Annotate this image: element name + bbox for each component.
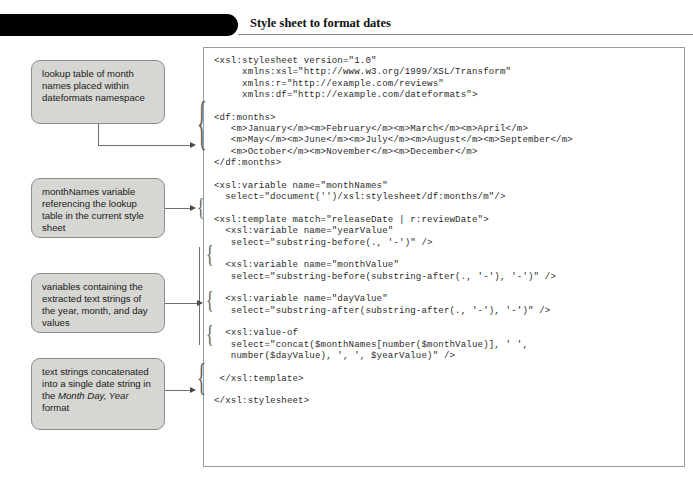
callout-monthnames-variable-text: monthNames variable referencing the look… <box>42 186 144 233</box>
figure-number-label: Figure 6-27 <box>604 16 667 31</box>
brace-monthnames-variable: { <box>197 194 205 219</box>
brace-dayvalue-variable: { <box>206 321 214 346</box>
variables-brace-spine <box>199 247 200 345</box>
callout-monthnames-variable: monthNames variable referencing the look… <box>31 178 165 238</box>
brace-lookup-table: { <box>197 93 207 152</box>
brace-yearvalue-variable: { <box>206 241 214 266</box>
callout-lookup-table: lookup table of month names placed withi… <box>31 60 165 124</box>
figure-title: Style sheet to format dates <box>250 16 391 31</box>
code-listing: <xsl:stylesheet version="1.0" xmlns:xsl=… <box>214 55 573 407</box>
callout-extracted-variables-text: variables containing the extracted text … <box>42 281 148 328</box>
brace-valueof-concat: { <box>197 359 206 396</box>
callout-concatenated-string-text-italic: Month Day, Year <box>58 390 129 401</box>
callout-concatenated-string-text-after: format <box>42 402 69 413</box>
figure-header: Figure 6-27 Style sheet to format dates <box>0 14 693 36</box>
brace-monthvalue-variable: { <box>206 287 214 312</box>
callout-concatenated-string: text strings concatenated into a single … <box>31 358 165 430</box>
figure-number-banner <box>0 14 238 36</box>
callout-lookup-table-text: lookup table of month names placed withi… <box>42 68 145 103</box>
callout-extracted-variables: variables containing the extracted text … <box>31 273 165 333</box>
code-panel: <xsl:stylesheet version="1.0" xmlns:xsl=… <box>203 47 685 467</box>
header-divider <box>238 34 693 35</box>
